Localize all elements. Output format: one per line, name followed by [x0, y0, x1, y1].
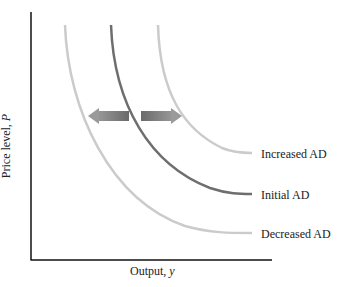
initial-ad-curve: [111, 25, 252, 194]
y-axis-label: Price level, P: [0, 114, 14, 178]
increased-ad-label: Increased AD: [261, 147, 327, 162]
left-shift-arrow-icon: [88, 108, 129, 124]
decreased-ad-label: Decreased AD: [261, 227, 331, 242]
initial-ad-label: Initial AD: [261, 188, 309, 203]
increased-ad-curve: [158, 25, 252, 153]
x-axis-label: Output, y: [130, 264, 175, 279]
ad-chart: [0, 0, 341, 287]
right-shift-arrow-icon: [141, 108, 182, 124]
decreased-ad-curve: [65, 25, 252, 233]
